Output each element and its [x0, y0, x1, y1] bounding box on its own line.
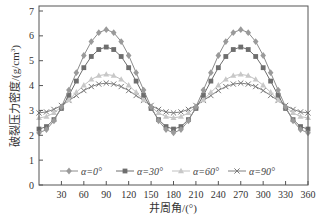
diamond-marker — [268, 69, 274, 76]
triangle-marker — [81, 82, 87, 87]
legend-label: α=60° — [193, 166, 219, 177]
square-marker — [123, 169, 128, 174]
square-marker — [208, 79, 213, 84]
y-tick-label: 2 — [29, 130, 34, 141]
x-tick-label: 300 — [256, 189, 271, 200]
square-marker — [81, 65, 86, 70]
square-marker — [223, 54, 228, 59]
x-marker — [119, 84, 124, 89]
square-marker — [216, 65, 221, 70]
x-axis-title: 井周角/(°) — [149, 201, 197, 215]
legend-label: α=90° — [249, 166, 275, 177]
x-marker — [126, 88, 131, 93]
diamond-marker — [126, 52, 132, 59]
x-tick-label: 240 — [211, 189, 226, 200]
square-marker — [238, 45, 243, 50]
square-marker — [96, 47, 101, 52]
triangle-marker — [215, 82, 221, 87]
square-marker — [119, 54, 124, 59]
square-marker — [261, 65, 266, 70]
diamond-marker — [260, 52, 266, 59]
square-marker — [126, 65, 131, 70]
y-tick-label: 4 — [29, 80, 34, 91]
square-marker — [89, 54, 94, 59]
triangle-marker — [260, 82, 266, 87]
y-axis: 01234567 — [29, 6, 43, 191]
diamond-marker — [238, 26, 244, 33]
y-tick-label: 0 — [29, 180, 34, 191]
diamond-marker — [208, 69, 214, 76]
square-marker — [111, 47, 116, 52]
legend-item: α=90° — [228, 166, 275, 177]
square-marker — [231, 47, 236, 52]
y-tick-label: 1 — [29, 155, 34, 166]
x-axis: 306090120150180210240270300330360 — [56, 181, 315, 200]
legend-item: α=0° — [60, 166, 102, 177]
diamond-marker — [74, 69, 80, 76]
y-tick-label: 5 — [29, 55, 34, 66]
diamond-marker — [103, 26, 109, 33]
series-line — [39, 83, 308, 113]
x-tick-label: 360 — [301, 189, 316, 200]
x-tick-label: 180 — [166, 189, 181, 200]
square-marker — [134, 79, 139, 84]
x-marker — [261, 88, 266, 93]
x-tick-label: 270 — [233, 189, 248, 200]
triangle-marker — [238, 71, 244, 76]
legend: α=0°α=30°α=60°α=90° — [60, 166, 275, 177]
x-tick-label: 120 — [121, 189, 136, 200]
x-marker — [216, 88, 221, 93]
legend-label: α=30° — [137, 166, 163, 177]
square-marker — [268, 79, 273, 84]
y-tick-label: 3 — [29, 105, 34, 116]
diamond-marker — [81, 52, 87, 59]
diamond-marker — [133, 69, 139, 76]
chart: 01234567 3060901201501802102402703003303… — [0, 0, 318, 222]
legend-item: α=30° — [116, 166, 163, 177]
series-3 — [36, 80, 310, 115]
x-marker — [253, 84, 258, 89]
square-marker — [74, 79, 79, 84]
x-marker — [223, 84, 228, 89]
x-tick-label: 90 — [101, 189, 111, 200]
square-marker — [104, 45, 109, 50]
diamond-marker — [66, 168, 72, 175]
x-marker — [89, 84, 94, 89]
square-marker — [253, 54, 258, 59]
legend-item: α=60° — [172, 166, 219, 177]
y-axis-title: 破裂压力密度/(g/cm3) — [8, 45, 22, 147]
x-tick-label: 60 — [79, 189, 89, 200]
series-line — [39, 74, 308, 118]
plot-frame — [39, 6, 308, 185]
x-tick-label: 30 — [56, 189, 66, 200]
x-marker — [81, 88, 86, 93]
triangle-marker — [126, 82, 132, 87]
x-tick-label: 330 — [278, 189, 293, 200]
diamond-marker — [216, 52, 222, 59]
series-layer — [36, 26, 311, 136]
y-tick-label: 7 — [29, 6, 34, 17]
y-tick-label: 6 — [29, 30, 34, 41]
x-tick-label: 150 — [144, 189, 159, 200]
square-marker — [246, 47, 251, 52]
triangle-marker — [103, 71, 109, 76]
x-tick-label: 210 — [188, 189, 203, 200]
legend-label: α=0° — [81, 166, 102, 177]
